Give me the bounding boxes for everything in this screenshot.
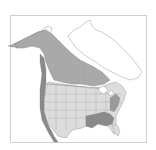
range-map <box>0 0 156 150</box>
